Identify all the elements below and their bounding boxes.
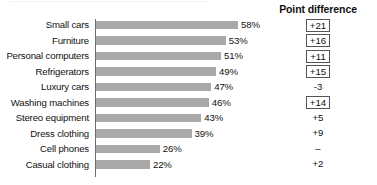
point-difference-text: +5	[310, 112, 327, 123]
point-difference-value: +2	[263, 158, 373, 169]
point-difference-text: +16	[306, 34, 330, 47]
category-label: Furniture	[0, 35, 89, 46]
point-difference-text: +9	[310, 127, 327, 138]
category-label: Stereo equipment	[0, 112, 89, 123]
point-difference-text: +15	[306, 65, 330, 78]
bar	[96, 21, 238, 30]
category-label: Luxury cars	[0, 81, 89, 92]
bar	[96, 160, 150, 169]
category-label: Washing machines	[0, 97, 89, 108]
point-difference-value: -3	[263, 81, 373, 92]
point-difference-value: +11	[263, 50, 373, 63]
bar	[96, 52, 221, 61]
bar-value-label: 53%	[229, 35, 248, 46]
chart-row: Luxury cars47%-3	[0, 81, 377, 97]
point-difference-value: +9	[263, 127, 373, 138]
bar	[96, 129, 192, 138]
bar-chart: Point difference Small cars58%+21Furnitu…	[0, 0, 377, 185]
bar-value-label: 58%	[241, 19, 260, 30]
bar-value-label: 43%	[204, 112, 223, 123]
point-difference-value: +14	[263, 96, 373, 109]
point-difference-text: –	[312, 143, 323, 154]
chart-row: Small cars58%+21	[0, 19, 377, 35]
bar-value-label: 51%	[224, 50, 243, 61]
point-difference-text: +11	[306, 50, 330, 63]
bar-value-label: 47%	[214, 81, 233, 92]
point-difference-text: +14	[306, 96, 330, 109]
category-label: Personal computers	[0, 50, 89, 61]
category-label: Small cars	[0, 19, 89, 30]
bar	[96, 98, 209, 107]
chart-row: Refrigerators49%+15	[0, 66, 377, 82]
chart-row: Washing machines46%+14	[0, 97, 377, 113]
bar-value-label: 49%	[219, 66, 238, 77]
bar	[96, 36, 226, 45]
bar-value-label: 22%	[153, 159, 172, 170]
bar	[96, 83, 211, 92]
bar-value-label: 26%	[163, 143, 182, 154]
chart-row: Personal computers51%+11	[0, 50, 377, 66]
chart-row: Stereo equipment43%+5	[0, 112, 377, 128]
category-label: Refrigerators	[0, 66, 89, 77]
point-difference-text: -3	[311, 81, 326, 92]
point-difference-value: +15	[263, 65, 373, 78]
bar	[96, 145, 160, 154]
chart-row: Casual clothing22%+2	[0, 159, 377, 175]
chart-row: Furniture53%+16	[0, 35, 377, 51]
point-difference-text: +2	[310, 158, 327, 169]
category-label: Cell phones	[0, 143, 89, 154]
category-label: Casual clothing	[0, 159, 89, 170]
bar	[96, 67, 216, 76]
bar-value-label: 39%	[195, 128, 214, 139]
plot-area: Small cars58%+21Furniture53%+16Personal …	[0, 19, 377, 179]
bar-value-label: 46%	[212, 97, 231, 108]
point-difference-column-header: Point difference	[263, 3, 373, 15]
category-label: Dress clothing	[0, 128, 89, 139]
chart-row: Cell phones26%–	[0, 143, 377, 159]
scan-artifact	[10, 1, 210, 2]
chart-row: Dress clothing39%+9	[0, 128, 377, 144]
point-difference-value: +5	[263, 112, 373, 123]
bar	[96, 114, 201, 123]
point-difference-value: +21	[263, 19, 373, 32]
point-difference-value: –	[263, 143, 373, 154]
point-difference-text: +21	[306, 19, 330, 32]
point-difference-value: +16	[263, 34, 373, 47]
